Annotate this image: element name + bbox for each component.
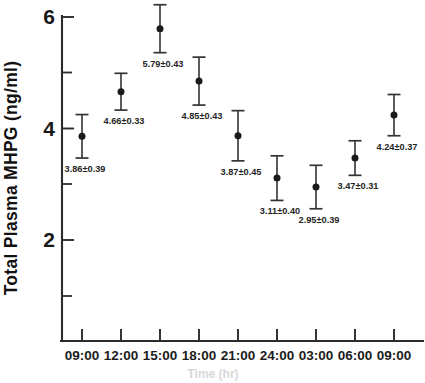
x-tick-label-5: 24:00 xyxy=(260,348,295,363)
y-tick-label-6: 6 xyxy=(43,5,55,28)
data-marker xyxy=(79,133,86,140)
data-point-label: 2.95±0.39 xyxy=(299,215,340,225)
data-point-label: 4.24±0.37 xyxy=(377,142,418,152)
x-tick-label-6: 03:00 xyxy=(299,348,334,363)
data-marker xyxy=(118,88,125,95)
data-marker xyxy=(313,184,320,191)
data-marker xyxy=(235,132,242,139)
data-marker xyxy=(196,78,203,85)
chart-background xyxy=(0,0,425,383)
data-marker xyxy=(352,155,359,162)
data-point-label: 4.66±0.33 xyxy=(104,116,145,126)
data-point-label: 4.85±0.43 xyxy=(182,111,223,121)
x-tick-label-0: 09:00 xyxy=(65,348,100,363)
data-point-label: 3.47±0.31 xyxy=(338,181,379,191)
y-tick-label-2: 2 xyxy=(43,228,55,251)
x-axis-tick-labels: 09:00 12:00 15:00 18:00 21:00 24:00 03:0… xyxy=(65,348,412,363)
x-tick-label-4: 21:00 xyxy=(221,348,256,363)
data-marker xyxy=(274,175,281,182)
y-tick-label-4: 4 xyxy=(43,117,55,140)
x-tick-label-2: 15:00 xyxy=(143,348,178,363)
data-marker xyxy=(391,112,398,119)
data-point-label: 3.11±0.40 xyxy=(260,206,300,216)
data-point-label: 3.87±0.45 xyxy=(221,167,262,177)
data-point-label: 5.79±0.43 xyxy=(143,59,184,69)
figure-caption-ghost: Time (hr) xyxy=(187,367,238,381)
x-tick-label-8: 09:00 xyxy=(377,348,412,363)
data-marker xyxy=(157,25,164,32)
mhpg-diurnal-scatter-chart: 6 4 2 Total Plasma MHPG (ng/ml) 09:00 12… xyxy=(0,0,425,383)
chart-figure: 6 4 2 Total Plasma MHPG (ng/ml) 09:00 12… xyxy=(0,0,425,383)
x-tick-label-1: 12:00 xyxy=(104,348,139,363)
data-point-label: 3.86±0.39 xyxy=(65,164,106,174)
x-tick-label-7: 06:00 xyxy=(338,348,373,363)
x-tick-label-3: 18:00 xyxy=(182,348,217,363)
y-axis-title: Total Plasma MHPG (ng/ml) xyxy=(1,61,21,296)
